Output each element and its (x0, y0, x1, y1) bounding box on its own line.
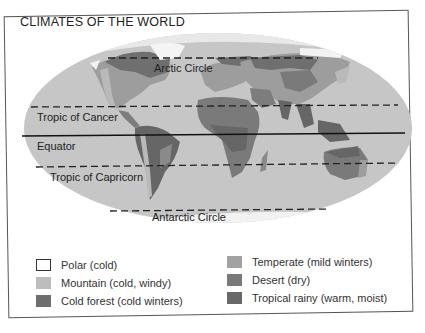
legend-label: Polar (cold) (61, 259, 117, 271)
polar-swatch (36, 259, 51, 271)
temperate-swatch (227, 256, 242, 268)
legend-item-desert: Desert (dry) (227, 274, 310, 286)
cold-forest-swatch (36, 295, 51, 307)
desert-swatch (227, 274, 242, 286)
legend-label: Desert (dry) (252, 274, 310, 286)
legend: Polar (cold) Mountain (cold, windy) Cold… (0, 0, 425, 333)
tropical-swatch (227, 292, 242, 304)
legend-item-polar: Polar (cold) (36, 259, 117, 271)
legend-label: Cold forest (cold winters) (61, 295, 183, 307)
legend-item-cold-forest: Cold forest (cold winters) (36, 295, 183, 307)
legend-label: Tropical rainy (warm, moist) (252, 292, 387, 304)
legend-item-tropical: Tropical rainy (warm, moist) (227, 292, 387, 304)
legend-label: Mountain (cold, windy) (61, 277, 171, 289)
legend-item-mountain: Mountain (cold, windy) (36, 277, 171, 289)
mountain-swatch (36, 277, 51, 289)
legend-label: Temperate (mild winters) (252, 256, 372, 268)
legend-item-temperate: Temperate (mild winters) (227, 256, 372, 268)
